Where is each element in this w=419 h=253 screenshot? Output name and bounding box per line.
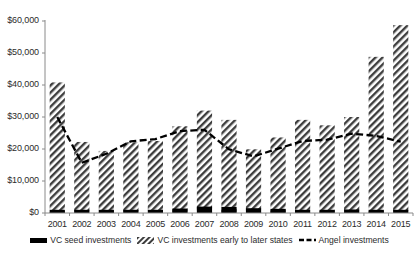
- x-axis-tick-label: 2015: [387, 219, 415, 229]
- legend-label-vc-seed: VC seed investments: [50, 236, 131, 245]
- legend-entry-vc-early-later: VC investments early to later states: [137, 236, 292, 245]
- dashed-line-swatch-icon: [299, 237, 316, 243]
- bar-vc-investments: [74, 142, 89, 213]
- bar-vc-investments: [393, 25, 408, 213]
- bar-vc-investments: [99, 151, 114, 213]
- bar-vc-investments: [221, 120, 236, 213]
- bar-vc-investments: [344, 117, 359, 213]
- bar-vc-investments: [295, 120, 310, 213]
- bar-vc-seed: [221, 207, 236, 213]
- bar-vc-seed: [344, 209, 359, 213]
- bar-vc-seed: [270, 209, 285, 213]
- solid-bar-swatch-icon: [30, 238, 47, 243]
- vc-investment-bars: [50, 25, 409, 213]
- bar-vc-investments: [50, 82, 65, 213]
- legend-entry-angel: Angel investments: [299, 236, 389, 245]
- bar-vc-investments: [197, 111, 212, 213]
- bar-vc-seed: [246, 208, 261, 213]
- legend-label-angel: Angel investments: [319, 236, 389, 245]
- legend-entry-vc-seed: VC seed investments: [30, 236, 131, 245]
- bar-vc-investments: [148, 141, 163, 213]
- plot-area: [0, 0, 419, 253]
- bar-vc-seed: [197, 207, 212, 213]
- bar-vc-investments: [172, 126, 187, 213]
- chart-legend: VC seed investments VC investments early…: [0, 236, 419, 245]
- bar-vc-investments: [246, 149, 261, 213]
- bar-vc-seed: [172, 209, 187, 213]
- chart-container: $0$10,000$20,000$30,000$40,000$50,000$60…: [0, 0, 419, 253]
- legend-label-vc-early-later: VC investments early to later states: [157, 236, 292, 245]
- bar-vc-investments: [123, 142, 138, 213]
- hatch-bar-swatch-icon: [137, 237, 154, 244]
